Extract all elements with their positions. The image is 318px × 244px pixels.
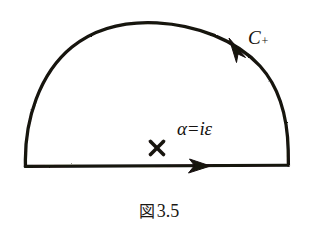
contour-label-subscript: + — [261, 34, 268, 48]
figure-container: C+ α=iε 図3.5 — [0, 0, 318, 244]
contour-label-letter: C — [248, 27, 261, 48]
pole-label: α=iε — [177, 119, 212, 138]
figure-caption: 図3.5 — [0, 198, 318, 222]
contour-baseline-path — [25, 165, 288, 166]
pole-cross-marker — [151, 142, 164, 155]
caption-kanji: 図 — [139, 202, 155, 221]
contour-label: C+ — [248, 28, 268, 47]
caption-number: 3.5 — [157, 201, 180, 221]
